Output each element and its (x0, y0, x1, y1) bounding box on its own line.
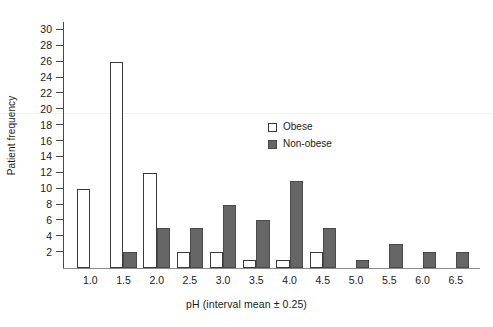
y-tick-label: 6 (46, 214, 52, 226)
x-tick-label: 6.5 (448, 274, 463, 286)
x-tick-label: 3.0 (216, 274, 231, 286)
bar-obese-2.0 (143, 173, 156, 268)
bar-non-obese-3.5 (256, 220, 269, 268)
histogram-figure: Patient frequency 2468101214161820222426… (0, 0, 493, 327)
bar-non-obese-5.5 (389, 244, 402, 268)
bar-non-obese-6.5 (456, 252, 469, 268)
x-tick-label: 3.5 (249, 274, 264, 286)
legend-item-non-obese: Non-obese (268, 139, 332, 149)
y-tick-label: 28 (40, 39, 52, 51)
y-tick-label: 18 (40, 119, 52, 131)
y-tick-label: 8 (46, 198, 52, 210)
x-tick-label: 1.0 (83, 274, 98, 286)
bar-obese-1.0 (77, 189, 90, 268)
y-tick-label: 24 (40, 71, 52, 83)
x-tick-label: 2.0 (149, 274, 164, 286)
bar-obese-3.5 (243, 260, 256, 268)
chart-legend: ObeseNon-obese (268, 122, 332, 156)
bar-non-obese-6.0 (423, 252, 436, 268)
x-axis-title: pH (interval mean ± 0.25) (0, 298, 493, 310)
y-tick: 28 (56, 45, 63, 46)
y-tick-label: 2 (46, 246, 52, 258)
y-tick: 14 (56, 156, 63, 157)
y-tick: 20 (56, 108, 63, 109)
legend-item-obese: Obese (268, 122, 332, 132)
bar-obese-2.5 (177, 252, 190, 268)
y-tick: 18 (56, 124, 63, 125)
y-tick-label: 16 (40, 135, 52, 147)
x-tick-label: 2.5 (183, 274, 198, 286)
y-tick-label: 30 (40, 23, 52, 35)
x-axis-spine (63, 268, 480, 269)
y-tick: 24 (56, 77, 63, 78)
x-tick-label: 1.5 (116, 274, 131, 286)
x-tick-label: 4.5 (316, 274, 331, 286)
y-tick-label: 20 (40, 103, 52, 115)
bar-non-obese-4.0 (290, 181, 303, 268)
bar-non-obese-1.5 (123, 252, 136, 268)
y-tick-label: 26 (40, 55, 52, 67)
y-tick: 4 (56, 235, 63, 236)
y-tick: 8 (56, 204, 63, 205)
y-tick: 2 (56, 251, 63, 252)
y-tick-label: 22 (40, 87, 52, 99)
y-tick: 30 (56, 29, 63, 30)
x-tick-label: 6.0 (415, 274, 430, 286)
y-tick: 26 (56, 61, 63, 62)
y-tick: 22 (56, 92, 63, 93)
legend-item-label: Non-obese (283, 139, 332, 149)
bar-obese-1.5 (110, 62, 123, 268)
y-tick-label: 4 (46, 230, 52, 242)
open-square-swatch (268, 123, 277, 132)
y-tick-label: 12 (40, 166, 52, 178)
bar-non-obese-4.5 (323, 228, 336, 268)
y-tick: 6 (56, 219, 63, 220)
plot-area: 24681012141618202224262830 1.01.52.02.53… (63, 22, 480, 268)
bar-non-obese-2.5 (190, 228, 203, 268)
y-axis-title: Patient frequency (2, 0, 22, 270)
y-tick-label: 10 (40, 182, 52, 194)
x-tick-label: 4.0 (282, 274, 297, 286)
bar-obese-4.5 (310, 252, 323, 268)
y-tick-label: 14 (40, 150, 52, 162)
y-axis-spine (63, 22, 64, 268)
bar-obese-3.0 (210, 252, 223, 268)
y-tick: 12 (56, 172, 63, 173)
bar-non-obese-5.0 (356, 260, 369, 268)
legend-item-label: Obese (283, 122, 312, 132)
bar-obese-4.0 (276, 260, 289, 268)
bar-non-obese-3.0 (223, 205, 236, 268)
y-axis-title-text: Patient frequency (7, 95, 18, 175)
filled-square-swatch (268, 140, 277, 149)
y-tick: 10 (56, 188, 63, 189)
x-tick-label: 5.0 (349, 274, 364, 286)
bar-non-obese-2.0 (157, 228, 170, 268)
x-axis-title-text: pH (interval mean ± 0.25) (186, 298, 307, 310)
y-tick: 16 (56, 140, 63, 141)
x-tick-label: 5.5 (382, 274, 397, 286)
